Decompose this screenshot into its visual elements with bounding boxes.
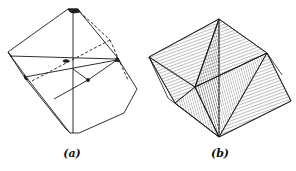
panel-label-a: (a) <box>57 147 87 160</box>
octahedron-diagram-b <box>149 19 291 137</box>
figure-canvas <box>0 0 296 171</box>
crystal-diagram-a <box>8 9 137 133</box>
panel-label-b: (b) <box>205 147 235 160</box>
